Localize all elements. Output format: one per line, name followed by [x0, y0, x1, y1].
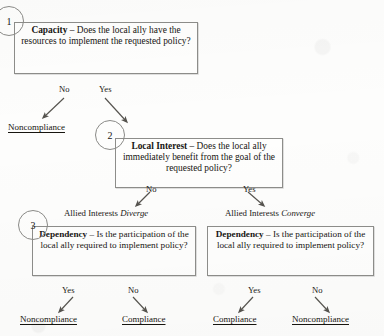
step-number-1-label: 1 — [7, 16, 12, 27]
step-number-3: 3 — [18, 210, 48, 240]
arrow-capacity-yes — [105, 98, 126, 121]
step-number-3-label: 3 — [31, 220, 36, 231]
arrow-dep-right-no — [315, 297, 328, 311]
arrow-dep-left-no — [133, 297, 146, 311]
arrow-capacity-no — [44, 98, 64, 117]
arrow-local-interest-yes — [248, 192, 263, 205]
arrow-local-interest-no — [137, 192, 150, 205]
step-number-2-label: 2 — [108, 130, 113, 141]
flowchart-canvas: 1 Capacity – Does the local ally have th… — [0, 0, 384, 336]
arrow-dep-right-yes — [240, 297, 253, 311]
arrow-layer — [0, 0, 384, 336]
step-number-2: 2 — [95, 120, 125, 150]
arrow-dep-left-yes — [60, 297, 73, 311]
